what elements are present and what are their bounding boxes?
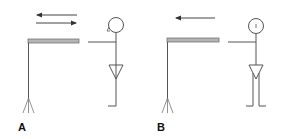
tripod-stand-icon <box>162 42 173 113</box>
diagram-canvas <box>0 0 284 139</box>
tripod-stand-icon <box>23 43 34 113</box>
head-icon <box>109 18 124 33</box>
panel-a <box>23 15 124 113</box>
horizontal-bar <box>167 38 219 42</box>
panel-label-b: B <box>157 121 165 133</box>
torso-triangle-icon <box>249 65 263 79</box>
stick-figure-icon <box>88 18 124 107</box>
bidirectional-arrows-icon <box>36 15 77 23</box>
horizontal-bar <box>28 39 79 43</box>
panel-label-a: A <box>18 121 26 133</box>
panel-b <box>162 18 266 113</box>
stick-figure-icon <box>228 19 266 107</box>
